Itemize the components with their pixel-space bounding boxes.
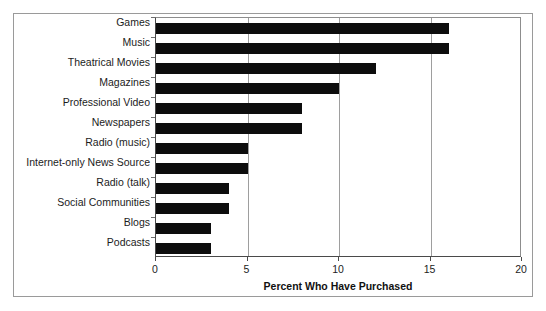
category-label: Newspapers — [5, 117, 155, 128]
category-label: Blogs — [5, 217, 155, 228]
bar — [156, 43, 449, 54]
bar-row — [156, 78, 520, 98]
bar-row — [156, 178, 520, 198]
x-tick-15 — [430, 257, 431, 261]
bar-chart: GamesMusicTheatrical MoviesMagazinesProf… — [0, 0, 546, 311]
scan-artifact-text — [18, 302, 528, 309]
x-tick-label: 10 — [332, 263, 344, 275]
bar-row — [156, 58, 520, 78]
bar — [156, 223, 211, 234]
category-label: Radio (talk) — [5, 177, 155, 188]
category-label: Music — [5, 37, 155, 48]
category-label-row: Professional Video — [0, 97, 155, 117]
x-tick-20 — [521, 257, 522, 261]
bar — [156, 123, 302, 134]
category-label: Social Communities — [5, 197, 155, 208]
x-tick-10 — [338, 257, 339, 261]
category-axis: GamesMusicTheatrical MoviesMagazinesProf… — [0, 17, 155, 257]
bars-layer — [156, 18, 520, 256]
bar-row — [156, 238, 520, 258]
bar-row — [156, 18, 520, 38]
category-label: Professional Video — [5, 97, 155, 108]
x-tick-label: 15 — [424, 263, 436, 275]
category-label-row: Theatrical Movies — [0, 57, 155, 77]
bar-row — [156, 218, 520, 238]
x-axis-title: Percent Who Have Purchased — [155, 280, 521, 292]
bar — [156, 183, 229, 194]
category-label: Theatrical Movies — [5, 57, 155, 68]
bar — [156, 103, 302, 114]
x-tick-0 — [155, 257, 156, 261]
category-label-row: Newspapers — [0, 117, 155, 137]
bar — [156, 163, 248, 174]
category-label: Podcasts — [5, 237, 155, 248]
x-tick-label: 5 — [244, 263, 250, 275]
category-label-row: Games — [0, 17, 155, 37]
category-label: Internet-only News Source — [5, 157, 155, 168]
bar-row — [156, 158, 520, 178]
plot-area — [155, 17, 521, 257]
bar-row — [156, 38, 520, 58]
x-tick-label: 0 — [152, 263, 158, 275]
category-label: Radio (music) — [5, 137, 155, 148]
category-label-row: Magazines — [0, 77, 155, 97]
bar-row — [156, 98, 520, 118]
category-label-row: Music — [0, 37, 155, 57]
bar — [156, 203, 229, 214]
category-label-row: Internet-only News Source — [0, 157, 155, 177]
bar — [156, 83, 339, 94]
x-tick-5 — [247, 257, 248, 261]
category-label-row: Social Communities — [0, 197, 155, 217]
value-axis: Percent Who Have Purchased 05101520 — [155, 257, 521, 297]
bar-row — [156, 118, 520, 138]
category-label: Magazines — [5, 77, 155, 88]
bar-row — [156, 198, 520, 218]
category-label-row: Blogs — [0, 217, 155, 237]
bar-row — [156, 138, 520, 158]
bar — [156, 143, 248, 154]
category-label-row: Radio (music) — [0, 137, 155, 157]
category-label-row: Podcasts — [0, 237, 155, 257]
x-tick-label: 20 — [515, 263, 527, 275]
category-label: Games — [5, 17, 155, 28]
bar — [156, 243, 211, 254]
bar — [156, 63, 376, 74]
category-label-row: Radio (talk) — [0, 177, 155, 197]
bar — [156, 23, 449, 34]
